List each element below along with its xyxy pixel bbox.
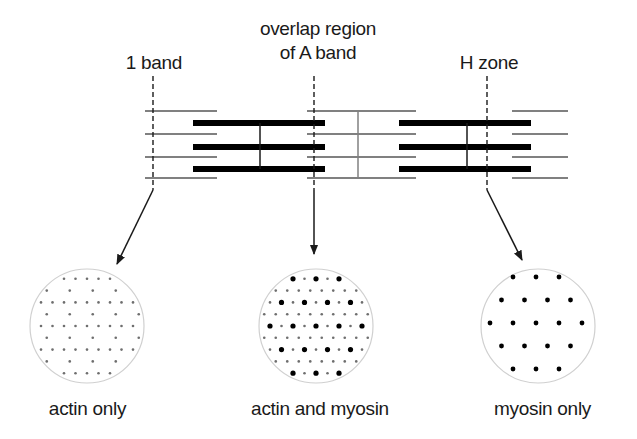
actin-dot <box>68 337 71 340</box>
myosin-dot <box>302 347 307 352</box>
actin-dot <box>274 313 277 316</box>
actin-dot <box>68 289 71 292</box>
myosin-dot <box>499 344 504 349</box>
actin-dot <box>297 360 300 363</box>
actin-dot <box>343 360 346 363</box>
actin-dot <box>303 372 306 375</box>
label-actin-only: actin only <box>30 398 145 420</box>
actin-dot <box>109 278 112 281</box>
myosin-dot <box>557 367 562 372</box>
myosin-dot <box>522 344 527 349</box>
actin-dot <box>63 301 66 304</box>
actin-dot <box>114 313 117 316</box>
actin-dot <box>51 348 54 351</box>
myosin-dot <box>568 344 573 349</box>
myosin-dot <box>290 371 295 376</box>
actin-dot <box>309 313 312 316</box>
actin-dot <box>343 337 346 340</box>
actin-dot <box>45 289 48 292</box>
myosin-dot <box>580 321 585 326</box>
actin-dot <box>132 348 135 351</box>
actin-dot <box>343 289 346 292</box>
actin-dot <box>97 325 100 328</box>
actin-dot <box>97 372 100 375</box>
actin-dot <box>45 360 48 363</box>
actin-dot <box>338 348 341 351</box>
actin-dot <box>332 337 335 340</box>
actin-dot <box>132 325 135 328</box>
actin-dot <box>63 278 66 281</box>
actin-dot <box>309 337 312 340</box>
actin-dot <box>74 278 77 281</box>
actin-dot <box>361 301 364 304</box>
myosin-dot <box>313 323 318 328</box>
actin-dot <box>91 289 94 292</box>
myosin-dot <box>511 321 516 326</box>
arrow-myosin-only <box>487 190 522 260</box>
actin-dot <box>45 337 48 340</box>
myosin-dot <box>348 347 353 352</box>
actin-dot <box>320 289 323 292</box>
actin-dot <box>74 372 77 375</box>
actin-dot <box>355 313 358 316</box>
actin-dot <box>366 313 369 316</box>
myosin-dot <box>534 275 539 280</box>
actin-dot <box>297 313 300 316</box>
actin-dot <box>114 360 117 363</box>
actin-dot <box>286 360 289 363</box>
actin-dot <box>91 360 94 363</box>
actin-dot <box>326 278 329 281</box>
actin-dot <box>63 325 66 328</box>
actin-dot <box>63 348 66 351</box>
actin-dot <box>332 313 335 316</box>
actin-dot <box>132 301 135 304</box>
actin-dot <box>320 360 323 363</box>
actin-dot <box>263 337 266 340</box>
actin-dot <box>51 325 54 328</box>
actin-dot <box>297 289 300 292</box>
actin-dot <box>120 301 123 304</box>
actin-dot <box>120 348 123 351</box>
myosin-dot <box>488 321 493 326</box>
actin-dot <box>63 372 66 375</box>
myosin-dot <box>336 371 341 376</box>
myosin-dot <box>313 276 318 281</box>
actin-dot <box>292 301 295 304</box>
actin-dot <box>269 301 272 304</box>
myosin-dot <box>290 323 295 328</box>
actin-dot <box>137 313 140 316</box>
actin-dot <box>91 313 94 316</box>
actin-dot <box>109 372 112 375</box>
actin-dot <box>74 301 77 304</box>
diagram-graphics <box>0 0 637 439</box>
actin-dot <box>332 360 335 363</box>
actin-dot <box>309 289 312 292</box>
actin-dot <box>315 348 318 351</box>
actin-dot <box>45 313 48 316</box>
actin-dot <box>280 325 283 328</box>
actin-dot <box>332 289 335 292</box>
actin-dot <box>343 313 346 316</box>
actin-dot <box>297 337 300 340</box>
actin-dot <box>40 325 43 328</box>
actin-dot <box>68 360 71 363</box>
actin-dot <box>355 360 358 363</box>
myosin-dot <box>302 300 307 305</box>
myosin-dot <box>511 275 516 280</box>
actin-dot <box>263 313 266 316</box>
actin-dot <box>120 325 123 328</box>
actin-dot <box>114 337 117 340</box>
myosin-dot <box>557 321 562 326</box>
actin-dot <box>315 301 318 304</box>
actin-dot <box>309 360 312 363</box>
myosin-dot <box>348 300 353 305</box>
actin-dot <box>40 348 43 351</box>
actin-dot <box>40 301 43 304</box>
actin-dot <box>68 313 71 316</box>
myosin-dot <box>279 347 284 352</box>
actin-dot <box>269 348 272 351</box>
myosin-dot <box>534 367 539 372</box>
myosin-dot <box>325 300 330 305</box>
label-myosin-only: myosin only <box>480 398 605 420</box>
actin-dot <box>274 337 277 340</box>
